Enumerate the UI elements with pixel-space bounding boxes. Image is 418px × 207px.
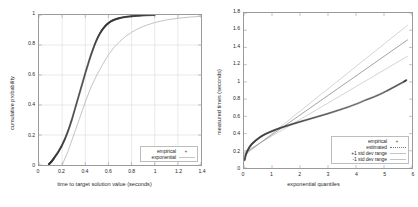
legend-key-minus-std-dev <box>390 156 406 162</box>
legend-label-minus-std-dev: -1 std dev range <box>352 157 387 162</box>
x-tick-label: 2 <box>298 172 301 177</box>
y-tick-label: 0.4 <box>24 103 35 108</box>
y-tick-label: 1 <box>229 79 240 84</box>
legend-label-plus-std-dev: +1 std dev range <box>351 151 387 156</box>
ttt-figure: 00.20.40.60.811.21.4 00.20.40.60.81 time… <box>0 0 418 207</box>
legend-label-empirical: empirical <box>157 149 176 154</box>
legend-key-exponential <box>179 154 195 160</box>
x-tick-label: 0.6 <box>105 169 112 174</box>
legend-item-minus-std-dev: -1 std dev range <box>334 156 406 162</box>
y-tick-label: 1.6 <box>229 27 240 32</box>
x-tick-label: 3 <box>327 172 330 177</box>
x-tick-label: 6 <box>412 172 415 177</box>
x-tick-label: 0.8 <box>128 169 135 174</box>
plot-frame-left <box>38 14 202 166</box>
y-axis-title-right: measured times (seconds) <box>217 69 223 135</box>
x-tick-label: 4 <box>355 172 358 177</box>
y-tick-label: 1 <box>24 11 35 16</box>
legend-label-empirical-right: empirical <box>368 139 387 144</box>
y-tick-label: 0.8 <box>24 42 35 47</box>
x-tick-label: 1.4 <box>199 169 206 174</box>
series-empirical-points <box>48 15 156 165</box>
x-tick-label: 0.4 <box>81 169 88 174</box>
y-tick-label: 0.8 <box>229 97 240 102</box>
y-axis-title-left: cumulative probability <box>10 76 16 130</box>
legend-label-estimated: estimated <box>366 145 387 150</box>
x-tick-label: 0.2 <box>58 169 65 174</box>
y-tick-label: 0 <box>229 166 240 171</box>
y-tick-label: 1.4 <box>229 44 240 49</box>
panel-cumulative-probability: 00.20.40.60.811.21.4 00.20.40.60.81 time… <box>0 0 209 207</box>
plot-canvas-left <box>39 15 201 165</box>
panel-qq-plot: 0123456 00.20.40.60.811.21.41.61.8 expon… <box>209 0 418 207</box>
x-axis-title-right: exponential quantiles <box>287 182 340 188</box>
y-tick-label: 0.4 <box>229 132 240 137</box>
x-tick-label: 1 <box>270 172 273 177</box>
y-tick-label: 1.2 <box>229 62 240 67</box>
y-tick-label: 1.8 <box>229 9 240 14</box>
y-tick-label: 0.6 <box>229 114 240 119</box>
x-tick-label: 0 <box>37 169 40 174</box>
x-tick-label: 0 <box>242 172 245 177</box>
legend-item-exponential: exponential <box>143 154 195 160</box>
y-tick-label: 0 <box>24 163 35 168</box>
y-tick-label: 0.6 <box>24 72 35 77</box>
x-tick-label: 1 <box>154 169 157 174</box>
x-tick-label: 5 <box>383 172 386 177</box>
legend-right: empirical + estimated +1 std dev range -… <box>331 136 409 164</box>
x-axis-title-left: time to target solution value (seconds) <box>57 182 152 188</box>
legend-label-exponential: exponential <box>152 155 176 160</box>
x-tick-label: 1.2 <box>175 169 182 174</box>
legend-left: empirical + exponential <box>140 146 198 162</box>
y-tick-label: 0.2 <box>24 133 35 138</box>
y-tick-label: 0.2 <box>229 149 240 154</box>
